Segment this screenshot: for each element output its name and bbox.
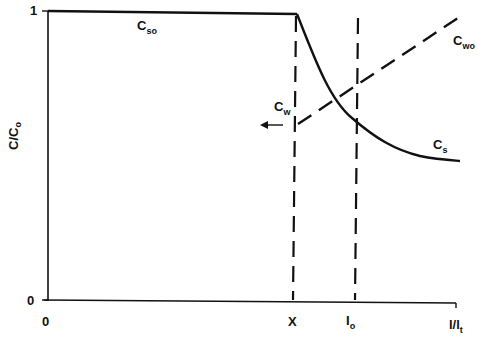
label-cs: Cs xyxy=(433,138,447,151)
x-axis-label: l/lt xyxy=(449,318,463,331)
y-tick-label-0: 0 xyxy=(27,294,34,307)
arrow-head-icon xyxy=(260,121,268,129)
y-tick-label-1: 1 xyxy=(30,4,37,17)
x-axis xyxy=(44,300,456,303)
label-cw: Cw xyxy=(274,100,290,113)
x-marker-label: X xyxy=(288,315,297,328)
y-axis-label: C/Co xyxy=(6,122,21,150)
io-marker-label: Io xyxy=(346,314,355,327)
curve-cw-cwo xyxy=(298,18,458,124)
label-cso: Cso xyxy=(137,19,157,32)
diagram-canvas xyxy=(0,0,478,339)
curve-cso xyxy=(48,11,297,14)
dashed-line-io xyxy=(355,18,358,300)
label-cwo: Cwo xyxy=(453,34,475,47)
x-origin-label: 0 xyxy=(42,315,49,328)
dashed-line-x xyxy=(293,16,296,300)
